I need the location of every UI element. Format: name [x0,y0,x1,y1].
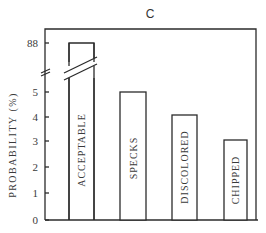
bar-label: ACCEPTABLE [76,113,87,187]
bar-acceptable: ACCEPTABLE [64,43,99,220]
y-tick-label: 4 [33,111,39,123]
y-tick-label: 2 [33,161,39,173]
bar-label: DISCOLORED [179,130,190,203]
bar-label: SPECKS [128,137,139,180]
y-tick-label: 1 [33,187,39,199]
bar-discolored: DISCOLORED [172,115,197,220]
y-tick-label: 5 [33,86,39,98]
y-tick-label: 88 [27,37,39,49]
bar-chart: C 0 1 2 3 4 5 88 PROBABILITY (%) [0,0,266,233]
y-tick-label: 3 [33,135,39,147]
chart-title: C [146,7,155,21]
bar-label: CHIPPED [230,156,241,205]
y-tick-label: 0 [33,214,39,226]
y-axis-label: PROBABILITY (%) [7,92,19,198]
bar-specks: SPECKS [120,92,146,220]
bar-chipped: CHIPPED [224,140,247,220]
y-axis-tick-labels: 0 1 2 3 4 5 88 [27,37,39,226]
